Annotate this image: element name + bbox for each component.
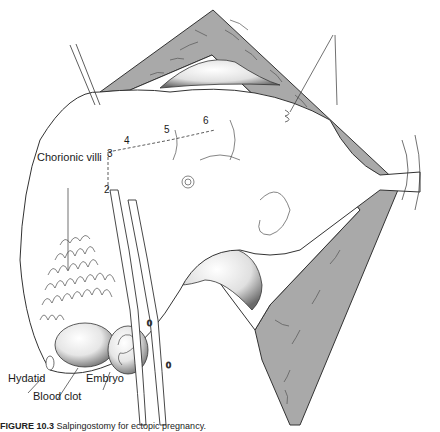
svg-text:0: 0 xyxy=(147,318,152,328)
caption-prefix: FIGURE 10.3 xyxy=(0,421,54,431)
figure-caption: FIGURE 10.3 Salpingostomy for ectopic pr… xyxy=(0,421,206,431)
label-embryo: Embryo xyxy=(86,372,124,384)
marker-5: 5 xyxy=(164,125,170,135)
marker-4: 4 xyxy=(124,136,130,146)
marker-3: 3 xyxy=(107,149,113,159)
caption-text: Salpingostomy for ectopic pregnancy. xyxy=(57,421,206,431)
marker-6: 6 xyxy=(203,116,209,126)
svg-text:0: 0 xyxy=(166,360,171,370)
label-chorionic-villi: Chorionic villi xyxy=(37,151,102,163)
hydatid xyxy=(46,356,54,370)
blood-clot xyxy=(55,323,115,367)
marker-2: 2 xyxy=(104,185,110,195)
label-blood-clot: Blood clot xyxy=(33,390,81,402)
label-hydatid: Hydatid xyxy=(8,372,45,384)
